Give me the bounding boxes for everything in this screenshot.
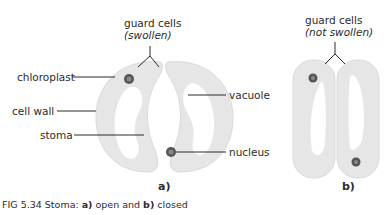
caption-prefix: FIG 5.34 Stoma: — [2, 199, 82, 210]
caption-a-text: open and — [92, 199, 143, 210]
guard-cells-sublabel-a: (swollen) — [124, 29, 172, 41]
guard-cells-sublabel-b: (not swollen) — [305, 26, 373, 38]
caption-b-label: b) — [143, 199, 154, 210]
leader-lines-b — [325, 42, 345, 64]
guard-cell-left-swollen — [96, 62, 162, 172]
panel-a-label: a) — [158, 180, 170, 193]
nucleus-label: nucleus — [229, 146, 270, 158]
vacuole-label: vacuole — [229, 89, 270, 101]
caption-a-label: a) — [82, 199, 93, 210]
guard-cell-right-closed — [337, 60, 379, 178]
caption-b-text: closed — [154, 199, 188, 210]
cell-wall-label: cell wall — [12, 105, 54, 117]
guard-cells-label-a: guard cells — [124, 17, 181, 29]
guard-cell-right-swollen — [166, 62, 233, 172]
stoma-label: stoma — [40, 129, 73, 141]
panel-b-label: b) — [342, 180, 355, 193]
figure-caption: FIG 5.34 Stoma: a) open and b) closed — [2, 199, 188, 210]
chloroplast-label: chloroplast — [17, 71, 75, 83]
guard-cell-left-closed — [293, 60, 335, 178]
guard-cells-label-b: guard cells — [305, 14, 362, 26]
